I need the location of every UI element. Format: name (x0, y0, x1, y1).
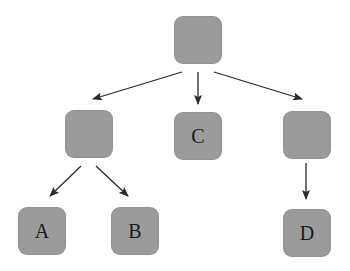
node-label-c: C (191, 126, 204, 146)
node-label-a: A (35, 221, 49, 241)
edge-left-b (96, 166, 128, 196)
node-c: C (174, 112, 222, 160)
node-label-b: B (128, 221, 141, 241)
node-b: B (111, 207, 159, 255)
node-a: A (18, 207, 66, 255)
edge-root-left (93, 72, 182, 99)
node-label-d: D (300, 223, 314, 243)
edge-root-right (214, 72, 302, 99)
node-left (65, 110, 113, 158)
node-right (283, 111, 331, 159)
node-root (174, 16, 222, 64)
tree-diagram: C A B D (0, 0, 350, 271)
edge-left-a (50, 166, 81, 196)
node-d: D (283, 209, 331, 257)
